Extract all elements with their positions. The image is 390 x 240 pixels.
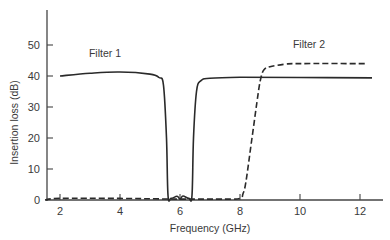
x-tick-label: 6 [177, 205, 183, 217]
series-filter-1-line [60, 72, 372, 201]
y-tick-label: 20 [28, 132, 40, 144]
x-tick-label: 10 [294, 205, 306, 217]
axes: 0102030405024681012 [28, 10, 383, 217]
series-group [45, 64, 372, 202]
x-tick-label: 4 [117, 205, 123, 217]
annotation-filter-1: Filter 1 [89, 47, 121, 59]
y-tick-label: 40 [28, 70, 40, 82]
y-tick-label: 10 [28, 163, 40, 175]
x-tick-label: 12 [354, 205, 366, 217]
insertion-loss-chart: 0102030405024681012 Frequency (GHz)Inser… [0, 0, 390, 240]
annotation-filter-2: Filter 2 [293, 38, 325, 50]
x-axis-label: Frequency (GHz) [170, 222, 251, 234]
series-filter-2-line [45, 64, 366, 200]
y-tick-label: 30 [28, 101, 40, 113]
y-tick-label: 50 [28, 39, 40, 51]
y-axis-label: Insertion loss (dB) [8, 80, 20, 165]
y-tick-label: 0 [34, 194, 40, 206]
x-tick-label: 8 [237, 205, 243, 217]
x-tick-label: 2 [57, 205, 63, 217]
